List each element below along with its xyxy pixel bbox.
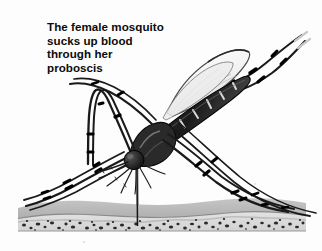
paper-speck bbox=[254, 183, 256, 185]
mosquito-drawing bbox=[0, 0, 322, 251]
paper-speck bbox=[83, 241, 85, 243]
mosquito-illustration bbox=[0, 0, 322, 251]
proboscis bbox=[137, 163, 138, 226]
